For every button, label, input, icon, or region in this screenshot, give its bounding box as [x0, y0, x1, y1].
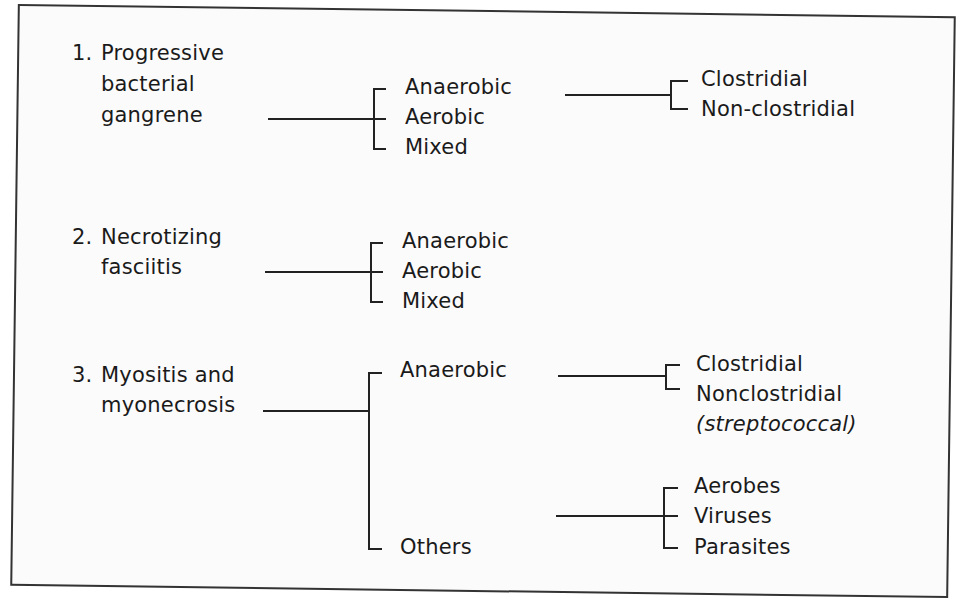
group-1-child-aerobic: Aerobic — [405, 102, 485, 132]
group-3-title-line-1: Myositis and — [101, 360, 235, 390]
bracket-tick — [370, 301, 383, 303]
bracket — [670, 80, 672, 109]
group-1-child-anaerobic: Anaerobic — [405, 72, 512, 102]
connector-line — [268, 118, 374, 120]
group-3-number: 3. — [72, 360, 92, 390]
connector-line — [263, 410, 369, 412]
connector-line — [556, 515, 664, 517]
group-3-others-parasites: Parasites — [694, 532, 791, 562]
bracket-tick — [370, 271, 383, 273]
bracket — [663, 487, 665, 548]
group-2-child-aerobic: Aerobic — [402, 256, 482, 286]
bracket-tick — [368, 372, 382, 374]
bracket — [368, 372, 370, 549]
bracket-tick — [373, 148, 386, 150]
group-2-title-line-1: Necrotizing — [101, 222, 222, 252]
group-1-anaerobic-non-clostridial: Non-clostridial — [701, 94, 855, 124]
bracket-tick — [663, 515, 678, 517]
bracket-tick — [665, 364, 680, 366]
group-3-child-anaerobic: Anaerobic — [400, 355, 507, 385]
bracket-tick — [373, 88, 386, 90]
group-1-child-mixed: Mixed — [405, 132, 468, 162]
bracket-tick — [665, 388, 680, 390]
bracket-tick — [368, 548, 382, 550]
group-3-title-line-2: myonecrosis — [101, 390, 235, 420]
bracket-tick — [663, 487, 678, 489]
bracket-tick — [663, 547, 678, 549]
bracket-tick — [370, 242, 383, 244]
group-3-child-others: Others — [400, 532, 472, 562]
bracket — [665, 364, 667, 389]
group-2-title-line-2: fasciitis — [101, 252, 182, 282]
group-1-number: 1. — [72, 38, 92, 68]
classification-diagram: 1. Progressive bacterial gangrene Anaero… — [0, 0, 960, 600]
group-3-others-aerobes: Aerobes — [694, 471, 781, 501]
group-2-child-mixed: Mixed — [402, 286, 465, 316]
group-1-title-line-2: bacterial — [101, 69, 195, 99]
group-3-others-viruses: Viruses — [694, 501, 772, 531]
bracket-tick — [670, 80, 688, 82]
group-3-anaerobic-nonclostridial: Nonclostridial — [696, 379, 842, 409]
bracket-tick — [373, 118, 386, 120]
group-1-title-line-1: Progressive — [101, 38, 224, 68]
group-3-anaerobic-streptococcal: (streptococcal) — [696, 409, 857, 439]
group-3-anaerobic-clostridial: Clostridial — [696, 349, 803, 379]
group-1-title-line-3: gangrene — [101, 100, 203, 130]
connector-line — [265, 271, 371, 273]
group-2-number: 2. — [72, 222, 92, 252]
group-1-anaerobic-clostridial: Clostridial — [701, 64, 808, 94]
connector-line — [558, 375, 666, 377]
connector-line — [565, 94, 671, 96]
group-2-child-anaerobic: Anaerobic — [402, 226, 509, 256]
bracket-tick — [670, 108, 688, 110]
